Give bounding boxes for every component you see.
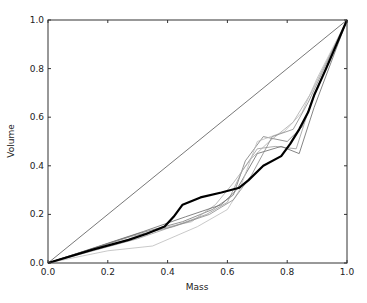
x-tick-label: 0.6 (220, 267, 235, 277)
y-tick-label: 0.4 (30, 161, 45, 171)
y-tick-label: 0.6 (30, 112, 45, 122)
y-tick-label: 0.8 (30, 64, 45, 74)
y-tick-label: 0.0 (30, 258, 45, 268)
y-axis-label: Volume (6, 124, 16, 158)
x-axis-label: Mass (186, 282, 209, 292)
x-tick-label: 0.0 (41, 267, 56, 277)
x-tick-label: 0.4 (160, 267, 175, 277)
y-tick-label: 1.0 (30, 15, 45, 25)
x-tick-label: 1.0 (340, 267, 355, 277)
x-tick-label: 0.2 (101, 267, 115, 277)
x-tick-label: 0.8 (280, 267, 295, 277)
series-layer (48, 20, 347, 263)
line-chart: 0.00.20.40.60.81.00.00.20.40.60.81.0 Mas… (0, 0, 367, 303)
y-tick-label: 0.2 (30, 209, 44, 219)
